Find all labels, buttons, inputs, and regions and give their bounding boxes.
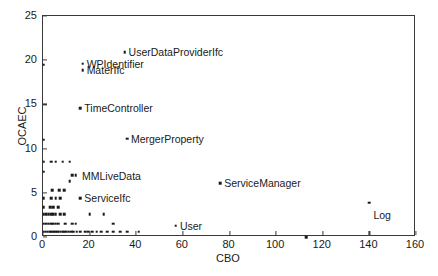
data-point [69, 161, 72, 164]
data-point [55, 197, 58, 200]
x-axis-tick [89, 231, 90, 235]
y-axis-tick [43, 104, 47, 105]
data-point [51, 189, 54, 192]
data-point [57, 222, 60, 225]
x-axis-tick-label: 60 [176, 239, 188, 250]
point-labels-layer: UserDataProviderIfcWPIdentifierMaterIfcT… [43, 16, 414, 235]
data-point [100, 230, 103, 233]
data-point [56, 230, 59, 233]
data-points-layer [43, 16, 414, 235]
data-point [50, 222, 53, 225]
data-point [63, 213, 66, 216]
data-point [49, 206, 52, 209]
data-point [59, 213, 62, 216]
x-axis-tick [229, 231, 230, 235]
data-point [52, 230, 55, 233]
y-axis-tick [43, 192, 47, 193]
data-point [70, 230, 73, 233]
point-label: User [180, 220, 202, 231]
data-point [64, 222, 67, 225]
data-point [42, 161, 45, 164]
point-label: MergerProperty [131, 134, 204, 145]
data-point [42, 206, 45, 209]
x-axis-tick-label: 100 [266, 239, 284, 250]
data-point [57, 206, 60, 209]
data-point [54, 230, 57, 233]
data-point [69, 180, 72, 183]
data-point [61, 230, 64, 233]
data-point [76, 230, 79, 233]
x-axis-tick-label: 40 [129, 239, 141, 250]
x-axis-tick [369, 231, 370, 235]
data-point [52, 222, 55, 225]
data-point [112, 230, 115, 233]
data-point [81, 62, 84, 65]
data-point [65, 230, 68, 233]
point-label: MaterIfc [87, 65, 125, 76]
data-point [42, 138, 45, 141]
x-axis-tick [322, 231, 323, 235]
y-axis-tick-label: 20 [25, 54, 37, 65]
x-axis-tick [42, 231, 43, 235]
point-label: ServiceIfc [84, 193, 130, 204]
x-axis-tick-label: 0 [39, 239, 45, 250]
point-label: TimeController [84, 103, 152, 114]
data-point [305, 236, 308, 239]
data-point [72, 230, 75, 233]
data-point [126, 138, 129, 141]
x-axis-tick-label: 140 [359, 239, 377, 250]
y-axis-tick [43, 60, 47, 61]
y-axis-tick-label: 0 [31, 231, 37, 242]
data-point [74, 174, 77, 177]
data-point [95, 230, 98, 233]
data-point [58, 189, 61, 192]
x-axis-tick-label: 20 [83, 239, 95, 250]
data-point [106, 230, 109, 233]
data-point [50, 230, 53, 233]
data-point [55, 161, 58, 164]
data-point [79, 197, 82, 200]
data-point [102, 213, 105, 216]
scatter-plot-figure: UserDataProviderIfcWPIdentifierMaterIfcT… [0, 0, 438, 276]
data-point [71, 174, 74, 177]
data-point [62, 161, 65, 164]
data-point [88, 213, 91, 216]
point-label: WPIdentifier [87, 58, 144, 69]
data-point [48, 230, 51, 233]
data-point [84, 230, 87, 233]
x-axis-tick-label: 80 [222, 239, 234, 250]
x-axis-tick-label: 120 [313, 239, 331, 250]
data-point [45, 230, 48, 233]
data-point [45, 213, 48, 216]
data-point [175, 224, 178, 227]
data-point [368, 201, 371, 204]
x-axis-tick [136, 231, 137, 235]
data-point [119, 230, 122, 233]
data-point [79, 230, 82, 233]
y-axis-tick [43, 148, 47, 149]
data-point [50, 161, 53, 164]
data-point [45, 222, 48, 225]
x-axis-tick [415, 231, 416, 235]
data-point [74, 222, 77, 225]
point-label: ServiceManager [224, 178, 300, 189]
point-label: Log [373, 209, 391, 220]
data-point [42, 222, 45, 225]
data-point [67, 230, 70, 233]
data-point [219, 182, 222, 185]
data-point [42, 197, 45, 200]
plot-area: UserDataProviderIfcWPIdentifierMaterIfcT… [42, 15, 415, 236]
data-point [59, 197, 62, 200]
data-point [52, 213, 55, 216]
data-point [63, 189, 66, 192]
y-axis-tick-label: 25 [25, 10, 37, 21]
y-axis-tick-label: 5 [31, 186, 37, 197]
data-point [50, 197, 53, 200]
data-point [55, 222, 58, 225]
data-point [59, 230, 62, 233]
y-axis-tick [43, 15, 47, 16]
data-point [55, 213, 58, 216]
data-point [63, 230, 66, 233]
data-point [58, 230, 61, 233]
data-point [48, 213, 51, 216]
